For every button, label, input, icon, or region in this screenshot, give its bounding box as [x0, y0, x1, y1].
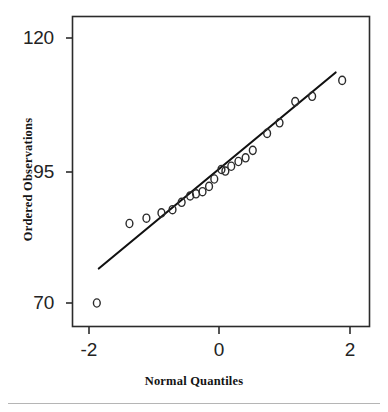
- data-point: [199, 188, 206, 196]
- footer-divider: [8, 403, 380, 404]
- plot-frame: [73, 17, 370, 327]
- y-axis-title: Ordered Observations: [21, 70, 36, 290]
- data-point: [206, 182, 213, 190]
- data-point: [339, 76, 346, 84]
- data-point: [242, 154, 249, 162]
- data-point-group: [93, 76, 345, 307]
- y-axis-tick-marks: [66, 38, 73, 303]
- data-point: [211, 175, 218, 183]
- data-point: [126, 219, 133, 227]
- y-tick-label-120: 120: [8, 28, 54, 47]
- y-tick-label-70: 70: [8, 293, 54, 312]
- data-point: [235, 157, 242, 165]
- x-tick-label-minus2: -2: [69, 340, 109, 359]
- x-tick-label-0: 0: [199, 340, 239, 359]
- data-point: [292, 98, 299, 106]
- x-axis-tick-marks: [89, 327, 350, 334]
- data-point: [309, 92, 316, 100]
- reference-line: [99, 72, 336, 268]
- data-point: [228, 162, 235, 170]
- qq-plot-figure: 120 95 70 -2 0 2 Ordered Observations No…: [0, 0, 388, 412]
- data-point: [249, 146, 256, 154]
- data-point: [93, 299, 100, 307]
- x-axis-title: Normal Quantiles: [0, 374, 388, 389]
- x-tick-label-2: 2: [330, 340, 370, 359]
- data-point: [143, 214, 150, 222]
